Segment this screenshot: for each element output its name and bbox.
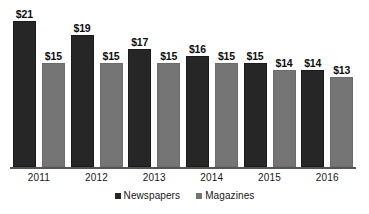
tick-label-2015: 2015 [241, 171, 299, 185]
bar-magazines-2011[interactable]: $15 [42, 8, 65, 167]
bar-rect [186, 56, 209, 167]
bar-rect [128, 49, 151, 167]
bar-magazines-2016[interactable]: $13 [330, 8, 353, 167]
tick-label-2013: 2013 [125, 171, 183, 185]
bar-value-label: $14 [304, 57, 321, 69]
bar-rect [215, 63, 238, 167]
bar-value-label: $13 [333, 64, 350, 76]
bar-value-label: $17 [131, 36, 148, 48]
tick-label-2011: 2011 [10, 171, 68, 185]
bar-newspapers-2011[interactable]: $21 [13, 8, 36, 167]
bar-magazines-2015[interactable]: $14 [273, 8, 296, 167]
tick-label-2016: 2016 [298, 171, 356, 185]
chart-legend: NewspapersMagazines [0, 190, 369, 202]
legend-swatch-icon [196, 193, 202, 199]
bar-rect [301, 70, 324, 167]
bar-rect [100, 63, 123, 167]
bar-value-label: $15 [218, 50, 235, 62]
legend-item-newspapers[interactable]: Newspapers [115, 190, 181, 202]
bar-newspapers-2012[interactable]: $19 [71, 8, 94, 167]
bar-magazines-2013[interactable]: $15 [157, 8, 180, 167]
bar-group-2013: $17$15 [125, 8, 183, 167]
bar-group-2011: $21$15 [10, 8, 68, 167]
tick-label-2012: 2012 [68, 171, 126, 185]
x-axis-line [10, 167, 356, 169]
bar-group-2016: $14$13 [298, 8, 356, 167]
legend-label: Newspapers [124, 190, 181, 202]
bar-newspapers-2014[interactable]: $16 [186, 8, 209, 167]
bar-rect [71, 35, 94, 167]
bar-value-label: $15 [160, 50, 177, 62]
bar-magazines-2014[interactable]: $15 [215, 8, 238, 167]
bar-rect [244, 63, 267, 167]
legend-item-magazines[interactable]: Magazines [196, 190, 254, 202]
bar-value-label: $14 [276, 57, 293, 69]
tick-label-2014: 2014 [183, 171, 241, 185]
x-axis-tick-labels: 201120122013201420152016 [10, 171, 356, 185]
bar-rect [42, 63, 65, 167]
bar-rect [13, 21, 36, 167]
bar-value-label: $21 [16, 8, 33, 20]
bar-newspapers-2016[interactable]: $14 [301, 8, 324, 167]
bar-value-label: $15 [103, 50, 120, 62]
bar-rect [330, 77, 353, 167]
bar-group-2012: $19$15 [68, 8, 126, 167]
bar-value-label: $15 [45, 50, 62, 62]
bar-value-label: $16 [189, 43, 206, 55]
bar-value-label: $15 [247, 50, 264, 62]
bar-magazines-2012[interactable]: $15 [100, 8, 123, 167]
bar-group-2014: $16$15 [183, 8, 241, 167]
bar-value-label: $19 [74, 22, 91, 34]
bar-newspapers-2013[interactable]: $17 [128, 8, 151, 167]
bar-groups: $21$15$19$15$17$15$16$15$15$14$14$13 [10, 8, 356, 167]
bar-chart: $21$15$19$15$17$15$16$15$15$14$14$13 201… [0, 0, 369, 214]
plot-area: $21$15$19$15$17$15$16$15$15$14$14$13 [10, 8, 356, 167]
legend-label: Magazines [205, 190, 254, 202]
bar-group-2015: $15$14 [241, 8, 299, 167]
bar-newspapers-2015[interactable]: $15 [244, 8, 267, 167]
legend-swatch-icon [115, 193, 121, 199]
bar-rect [273, 70, 296, 167]
bar-rect [157, 63, 180, 167]
